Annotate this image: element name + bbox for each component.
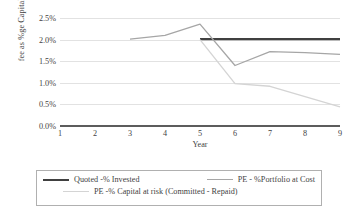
x-axis-tick-label: 3 bbox=[128, 129, 132, 138]
legend-swatch-icon bbox=[63, 191, 89, 192]
legend-label: PE -% Capital at risk (Committed - Repai… bbox=[94, 187, 237, 196]
x-axis-tick-label: 4 bbox=[163, 129, 167, 138]
x-axis-tick-label: 2 bbox=[93, 129, 97, 138]
x-axis-title: Year bbox=[60, 140, 340, 149]
y-axis-tick-label: 0.0% bbox=[39, 122, 56, 131]
legend-swatch-icon bbox=[43, 179, 69, 181]
x-axis-tick-label: 8 bbox=[303, 129, 307, 138]
series-layer bbox=[60, 18, 340, 126]
legend-row: Quoted -% Invested PE - %Portfolio at Co… bbox=[43, 175, 315, 184]
legend-label: Quoted -% Invested bbox=[74, 175, 139, 184]
plot-area: 0.0%0.5%1.0%1.5%2.0%2.5%123456789 bbox=[60, 18, 340, 126]
legend-row: PE -% Capital at risk (Committed - Repai… bbox=[43, 187, 315, 196]
x-axis-tick-label: 1 bbox=[58, 129, 62, 138]
chart-container: fee as %ge Capital Invested 0.0%0.5%1.0%… bbox=[0, 0, 355, 215]
x-axis-tick-label: 9 bbox=[338, 129, 342, 138]
legend-item-quoted[interactable]: Quoted -% Invested bbox=[43, 175, 139, 184]
y-axis-tick-label: 1.5% bbox=[39, 57, 56, 66]
x-axis-tick-label: 6 bbox=[233, 129, 237, 138]
legend-swatch-icon bbox=[207, 179, 233, 180]
x-axis-tick-label: 7 bbox=[268, 129, 272, 138]
y-axis-title: fee as %ge Capital Invested bbox=[17, 0, 26, 77]
y-axis-tick-label: 2.0% bbox=[39, 35, 56, 44]
y-axis-tick-label: 2.5% bbox=[39, 14, 56, 23]
y-axis-tick-label: 1.0% bbox=[39, 78, 56, 87]
y-axis-tick-label: 0.5% bbox=[39, 100, 56, 109]
legend-item-portfolio-at-cost[interactable]: PE - %Portfolio at Cost bbox=[207, 175, 315, 184]
series-line bbox=[130, 24, 340, 65]
chart-legend: Quoted -% Invested PE - %Portfolio at Co… bbox=[36, 170, 322, 206]
legend-item-capital-at-risk[interactable]: PE -% Capital at risk (Committed - Repai… bbox=[63, 187, 237, 196]
x-axis-tick-label: 5 bbox=[198, 129, 202, 138]
legend-label: PE - %Portfolio at Cost bbox=[238, 175, 315, 184]
